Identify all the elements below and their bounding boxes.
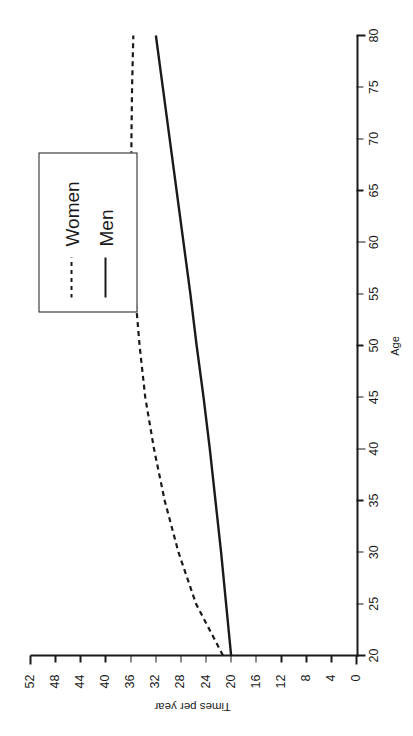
legend-label-men: Men	[96, 209, 115, 246]
dashed-line-key-icon	[70, 257, 72, 297]
solid-line-key-icon	[104, 257, 106, 297]
series-line-men	[155, 35, 230, 655]
chart-legend: Women Men	[38, 152, 137, 312]
legend-label-women: Women	[62, 181, 81, 246]
series-line-women	[131, 35, 223, 655]
chart-page: 20253035404550556065707580 0481216202428…	[0, 0, 413, 736]
plot-area	[0, 0, 413, 736]
rotated-chart-container: 20253035404550556065707580 0481216202428…	[0, 0, 413, 736]
legend-entry-women: Women	[59, 181, 83, 297]
line-chart: 20253035404550556065707580 0481216202428…	[0, 0, 413, 736]
legend-entry-men: Men	[93, 209, 117, 297]
